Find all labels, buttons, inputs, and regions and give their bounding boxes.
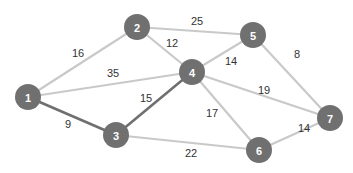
node-label: 3 bbox=[113, 130, 119, 142]
node-5: 5 bbox=[240, 22, 266, 48]
node-label: 7 bbox=[327, 113, 333, 125]
edges-layer bbox=[28, 27, 330, 150]
edge-weight-6-7: 14 bbox=[298, 122, 310, 134]
edge-weight-2-4: 12 bbox=[166, 37, 178, 49]
edge-weight-1-3: 9 bbox=[65, 118, 71, 130]
node-4: 4 bbox=[179, 59, 205, 85]
node-2: 2 bbox=[124, 14, 150, 40]
edge-weight-1-4: 35 bbox=[107, 67, 119, 79]
node-label: 6 bbox=[256, 145, 262, 157]
edge-1-2 bbox=[28, 27, 137, 97]
edge-weight-3-4: 15 bbox=[140, 92, 152, 104]
node-1: 1 bbox=[15, 84, 41, 110]
edge-1-3 bbox=[28, 97, 116, 135]
edge-weight-1-2: 16 bbox=[72, 47, 84, 59]
edge-weight-4-7: 19 bbox=[258, 84, 270, 96]
edge-weight-2-5: 25 bbox=[191, 15, 203, 27]
node-6: 6 bbox=[246, 137, 272, 163]
node-label: 2 bbox=[134, 22, 140, 34]
edge-weight-3-6: 22 bbox=[185, 147, 197, 159]
node-label: 1 bbox=[25, 92, 31, 104]
node-3: 3 bbox=[103, 122, 129, 148]
edge-2-5 bbox=[137, 27, 253, 35]
edge-weight-5-7: 8 bbox=[294, 48, 300, 60]
edge-weights-layer: 1635925121522141917814 bbox=[65, 15, 310, 159]
edge-weight-4-5: 14 bbox=[225, 55, 237, 67]
graph-diagram: 1635925121522141917814 1234567 bbox=[0, 0, 353, 173]
node-label: 5 bbox=[250, 30, 256, 42]
node-7: 7 bbox=[317, 105, 343, 131]
edge-weight-4-6: 17 bbox=[206, 107, 218, 119]
node-label: 4 bbox=[189, 67, 196, 79]
